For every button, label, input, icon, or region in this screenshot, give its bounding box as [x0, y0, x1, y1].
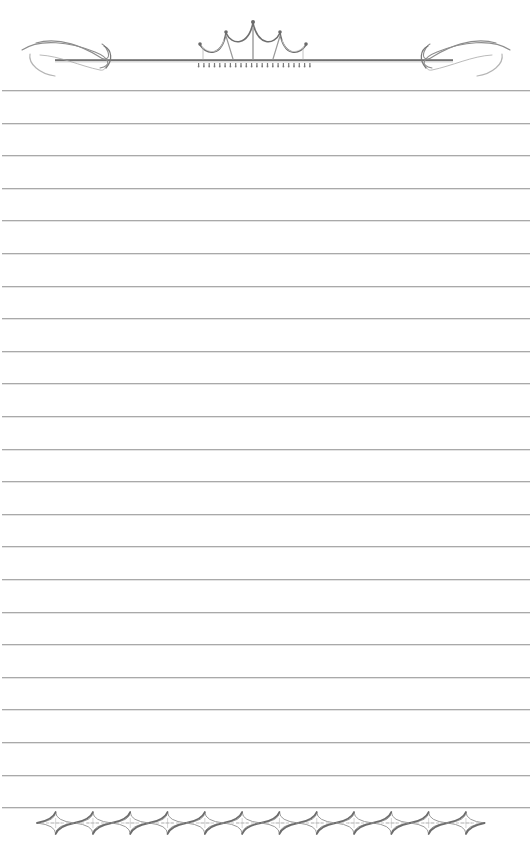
ruled-line: [2, 677, 530, 678]
ruled-line: [2, 481, 530, 482]
diamond-chain-border-icon: [37, 812, 485, 834]
ruled-line: [2, 90, 530, 91]
ruled-line: [2, 351, 530, 352]
ruled-line: [2, 709, 530, 710]
ruled-line: [2, 253, 530, 254]
ruled-writing-area[interactable]: [0, 0, 532, 866]
ruled-line: [2, 612, 530, 613]
ruled-line: [2, 286, 530, 287]
ruled-line: [2, 579, 530, 580]
ruled-line: [2, 416, 530, 417]
ruled-line: [2, 318, 530, 319]
ruled-line: [2, 742, 530, 743]
ruled-line: [2, 546, 530, 547]
ruled-line: [2, 188, 530, 189]
ruled-line: [2, 123, 530, 124]
ruled-line: [2, 644, 530, 645]
ruled-line: [2, 383, 530, 384]
footer-ornament: [0, 805, 532, 845]
ruled-line: [2, 514, 530, 515]
stationery-page: [0, 0, 532, 866]
ruled-line: [2, 155, 530, 156]
ruled-line: [2, 775, 530, 776]
ruled-line: [2, 220, 530, 221]
ruled-line: [2, 449, 530, 450]
